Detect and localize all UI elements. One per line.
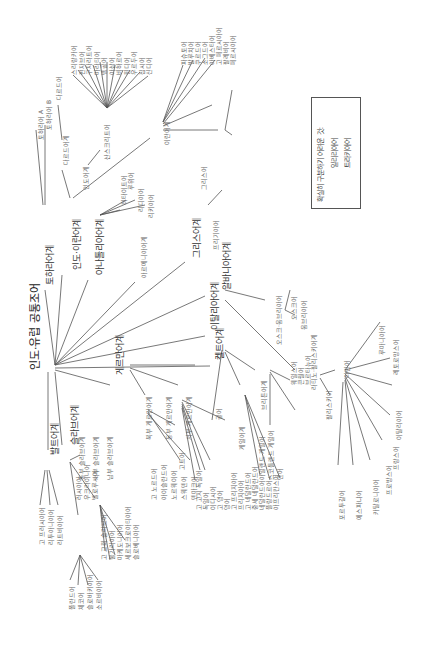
leaf-west_germanic-11: 아프리칸스어 xyxy=(272,474,279,510)
leaf-romance_langs-2: 이탈리아어 xyxy=(395,410,402,440)
leaf-east_slavic-2: 벨로루시어 xyxy=(91,470,98,500)
leaf-west_germanic-2: 이디시어 xyxy=(209,486,216,510)
leaf-romance_langs-4: 프로방스어 xyxy=(385,465,392,495)
leaf-iranian_langs-1: 발루치어 xyxy=(187,41,194,65)
tree-node-greek: 그리스어계 xyxy=(192,218,202,258)
tree-node-luwian: 루위어 xyxy=(127,172,134,190)
tree-node-albanian: 알바니아어계 xyxy=(222,242,232,290)
leaf-west_slavic-3: 소르비아어 xyxy=(95,580,102,610)
leaf-iranian_langs-4: 아베스타어 xyxy=(208,35,215,65)
leaf-indic_langs-5: 아삼어 xyxy=(108,57,115,75)
tree-node-indic: 인도어계 xyxy=(82,166,89,190)
leaf-indic_langs-2: 구자라트어 xyxy=(85,45,92,75)
leaf-brythonic_langs-1: 콘월어 xyxy=(297,367,304,385)
leaf-germanic_branches-0: 북부 게르만어계 xyxy=(145,396,152,440)
legend-heading: 확실히 구분하기 어려운 것: xyxy=(318,127,325,202)
legend-item-thracian: 트라키아어 xyxy=(345,138,352,168)
leaf-romance_langs-1: 레토로망스어 xyxy=(392,339,399,375)
leaf-baltic_langs-0: 고 프러시아어 xyxy=(38,507,45,545)
leaf-indic_langs-4: 벵골어 xyxy=(100,57,107,75)
leaf-west_germanic-1: 독일어 xyxy=(202,492,209,510)
leaf-west_germanic-6: 프리지아어 xyxy=(237,480,244,510)
leaf-slavic_branches-2: 남부 슬라브어계 xyxy=(106,436,113,480)
tree-node-germanic: 게르만어계 xyxy=(115,335,125,375)
tree-node-goidelic: 게일어계 xyxy=(238,426,245,450)
tree-node-hittite: 히타이트어 xyxy=(120,175,127,205)
tree-node-anatolian: 아나톨리아어계 xyxy=(95,219,105,275)
tree-node-oscan: 오스크어 xyxy=(290,296,297,320)
leaf-brythonic_langs-2: 브르타뉴어 xyxy=(304,355,311,385)
tree-node-phryg: 프리기아어 xyxy=(212,220,219,250)
leaf-east_slavic-0: 러시아어 xyxy=(75,476,82,500)
leaf-west_slavic-2: 슬로바키아어 xyxy=(86,574,93,610)
leaf-west_slavic-1: 체코어 xyxy=(77,592,84,610)
tree-node-dard: 다르드어계 xyxy=(62,135,69,165)
tree-node-indoiran: 인도·이란어계 xyxy=(72,219,82,270)
leaf-north_germanic-1: 아이슬란드어 xyxy=(160,464,167,500)
leaf-baltic_langs-1: 리투아니아어 xyxy=(47,509,54,545)
tree-node-italic: 이탈리아어계 xyxy=(210,282,220,330)
leaf-west_germanic-9: 네덜란드어 xyxy=(258,480,265,510)
leaf-baltic_langs-2: 라트비아어 xyxy=(56,515,63,545)
leaf-indic_langs-8: 우르두어 xyxy=(130,51,137,75)
leaf-south_slavic-4: 슬로베니아어 xyxy=(132,524,139,560)
tree-node-faliscan: 팔리스키어 xyxy=(325,390,332,420)
tree-node-dardic: 다르드어 xyxy=(55,76,62,100)
tree-node-lydian: 리디아어 xyxy=(137,188,144,212)
tree-node-celtic: 켈트어계 xyxy=(215,328,225,360)
leaf-goidelic_langs-1: 스코틀랜드 게일어 xyxy=(267,430,274,480)
leaf-north_germanic-2: 노르웨이어 xyxy=(170,470,177,500)
tree-node-armenian: 아르메니아어계 xyxy=(140,236,147,278)
leaf-north_germanic-0: 고 노르드어 xyxy=(150,468,157,500)
leaf-south_slavic-0: 고 교회 슬라브어 xyxy=(100,514,107,560)
leaf-romance_langs-6: 에스파냐어 xyxy=(355,490,362,520)
leaf-goidelic_langs-0: 아일랜드 게일어 xyxy=(258,436,265,480)
leaf-indic_langs-6: 비하르어 xyxy=(115,51,122,75)
tree-node-latfal: 라티노·팔리스키어계 xyxy=(310,334,317,390)
leaf-east_germanic-0: 고트어 xyxy=(178,452,185,470)
leaf-south_slavic-2: 마케도니아어 xyxy=(116,524,123,560)
leaf-indic_langs-0: 스리랑카어 xyxy=(70,45,77,75)
tree-node-iranian: 이란어계 xyxy=(163,121,170,145)
tree-node-tochar: 토하라어계 xyxy=(45,245,55,285)
leaf-iranian_langs-3: 소그드어 xyxy=(201,41,208,65)
tree-node-latin: 라틴어 xyxy=(343,360,350,378)
leaf-iranian_langs-7: 페르시아어 xyxy=(229,35,236,65)
leaf-indic_langs-7: 힌디어 xyxy=(123,57,130,75)
leaf-west_germanic-3: 고 영어 xyxy=(216,490,223,510)
leaf-west_germanic-10: 플랑드르어 xyxy=(265,480,272,510)
leaf-west_germanic-4: 영어 xyxy=(223,498,230,510)
leaf-iranian_langs-2: 쿠르드어 xyxy=(194,41,201,65)
leaf-south_slavic-3: 세르보크로아티아어 xyxy=(124,506,131,560)
leaf-brythonic_langs-0: 웨일스어 xyxy=(290,361,297,385)
tree-node-tochA: 토하라어 A xyxy=(37,110,44,140)
leaf-south_slavic-1: 불가리아어 xyxy=(108,530,115,560)
leaf-iranian_langs-0: 파슈토어 xyxy=(180,41,187,65)
leaf-iranian_langs-5: 고 페르시아어 xyxy=(215,27,222,65)
leaf-west_germanic-0: 고 고지 독일어 xyxy=(195,470,202,510)
tree-node-balto: 발트어계 xyxy=(50,423,60,455)
leaf-romance_langs-5: 카탈로니아어 xyxy=(372,479,379,515)
leaf-west_germanic-8: 중세 네덜란드어 xyxy=(251,466,258,510)
leaf-indic_langs-1: 펀자브어 xyxy=(78,51,85,75)
tree-node-root: 인도·유럽 공통조어 xyxy=(30,283,42,370)
tree-node-tochB: 토하라어 B xyxy=(45,100,52,130)
leaf-romance_langs-0: 루마니아어 xyxy=(378,325,385,355)
tree-node-osco: 오스크·움브리아어 xyxy=(275,295,282,345)
tree-node-umbrian: 움브리아어 xyxy=(300,300,307,330)
legend-box: 확실히 구분하기 어려운 것: 일리리아어 트라키아어 xyxy=(311,97,361,209)
tree-node-sanskrit: 산스크리트어 xyxy=(103,124,110,160)
leaf-indic_langs-10: 신디어 xyxy=(145,57,152,75)
tree-node-gaulish: 골어 xyxy=(215,408,222,420)
leaf-east_slavic-1: 우크라이나어 xyxy=(83,464,90,500)
leaf-romance_langs-3: 프랑스어 xyxy=(392,446,399,470)
tree-node-brythonic: 브리튼어계 xyxy=(260,380,267,410)
leaf-germanic_branches-2: 서부 게르만어계 xyxy=(185,396,192,440)
leaf-romance_langs-7: 포르투갈어 xyxy=(338,490,345,520)
tree-node-greekL: 그리스어 xyxy=(200,166,207,190)
leaf-north_germanic-3: 스웨덴어 xyxy=(180,476,187,500)
leaf-germanic_branches-1: 동부 게르만어계 xyxy=(165,396,172,440)
leaf-iranian_langs-6: 팔레비어 xyxy=(222,41,229,65)
leaf-indic_langs-9: 집시어 xyxy=(138,57,145,75)
leaf-west_slavic-0: 폴란드어 xyxy=(68,586,75,610)
